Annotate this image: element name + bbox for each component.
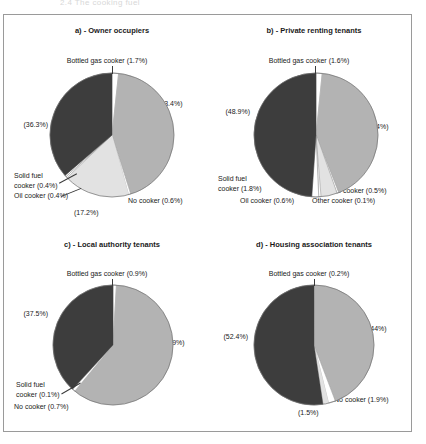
pie-panel-b: b) - Private renting tenants Bottled gas… — [216, 26, 412, 221]
pie-c-label-solidfuel-1: Solid fuel — [16, 380, 45, 390]
pie-title-d: d) - Housing association tenants — [216, 240, 412, 249]
pie-a-svg — [47, 70, 177, 200]
pie-a-label-solidfuel-1: Solid fuel — [14, 171, 43, 181]
pie-d-slices — [254, 285, 374, 405]
pie-d-label-left: (52.4%) — [206, 332, 248, 342]
pie-a-label-top: Bottled gas cooker (1.7%) — [22, 56, 192, 66]
pie-b-svg — [251, 70, 381, 200]
pie-d-slice-dark-slice — [254, 285, 323, 405]
pie-d-label-bottom-center: (1.5%) — [298, 408, 319, 418]
pie-panel-d: d) - Housing association tenants Bottled… — [216, 240, 412, 430]
figure-root: 2.4 The cooking fuel a) - Owner occupier… — [0, 0, 426, 444]
pie-c-label-left: (37.5%) — [8, 309, 48, 319]
pie-c-leader-top — [112, 279, 113, 286]
pie-b-label-solidfuel-1: Solid fuel — [218, 174, 247, 184]
pie-a-leader-top — [112, 66, 113, 74]
pie-d-graphic — [251, 282, 377, 408]
pie-a-label-bottom-center: (17.2%) — [74, 208, 99, 218]
pie-d-svg — [251, 282, 377, 408]
top-caption: 2.4 The cooking fuel — [60, 0, 260, 10]
pie-d-label-top: Bottled gas cooker (0.2%) — [224, 269, 394, 279]
pie-d-leader-top — [314, 279, 315, 286]
pie-b-label-top: Bottled gas cooker (1.6%) — [224, 56, 394, 66]
pie-panel-c: c) - Local authority tenants Bottled gas… — [14, 240, 210, 430]
pie-c-label-top: Bottled gas cooker (0.9%) — [22, 269, 192, 279]
pie-title-c: c) - Local authority tenants — [14, 240, 210, 249]
pie-b-label-left: (48.9%) — [208, 107, 250, 117]
pie-a-graphic — [47, 70, 177, 200]
pie-b-slices — [254, 73, 378, 197]
pie-b-slice-dark-slice — [254, 73, 316, 197]
pie-title-b: b) - Private renting tenants — [216, 26, 412, 35]
pie-a-label-left: (36.3%) — [8, 120, 48, 130]
pie-b-leader-top — [315, 66, 316, 74]
pie-panel-a: a) - Owner occupiers Bottled gas cooker … — [14, 26, 210, 221]
pie-b-graphic — [251, 70, 381, 200]
pie-title-a: a) - Owner occupiers — [14, 26, 210, 35]
